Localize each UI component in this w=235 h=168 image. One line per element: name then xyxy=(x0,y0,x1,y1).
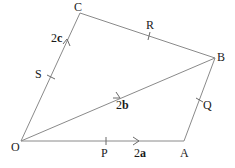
vector-label-2b: 2b xyxy=(116,98,129,112)
midpoint-label-Q: Q xyxy=(203,98,212,112)
vertex-label-O: O xyxy=(11,140,20,154)
midpoint-label-P: P xyxy=(101,146,108,160)
vector-label-2c: 2c xyxy=(51,31,63,45)
vertex-label-B: B xyxy=(217,50,225,64)
vertex-label-A: A xyxy=(180,146,189,160)
vector-label-2a: 2a xyxy=(134,146,146,160)
vertex-label-C: C xyxy=(74,0,82,14)
midpoint-label-S: S xyxy=(35,67,42,81)
vector-diagram: O A B C P Q R S 2a 2b 2c xyxy=(0,0,235,168)
midpoint-label-R: R xyxy=(146,18,154,32)
